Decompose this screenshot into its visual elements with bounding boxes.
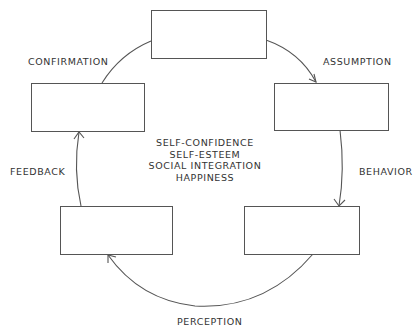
arrow-assumption xyxy=(266,40,316,82)
arrow-feedback xyxy=(76,132,81,206)
label-assumption: ASSUMPTION xyxy=(323,56,392,67)
center-text: SELF-CONFIDENCE SELF-ESTEEM SOCIAL INTEG… xyxy=(130,137,280,183)
center-item: HAPPINESS xyxy=(130,172,280,184)
center-item: SELF-ESTEEM xyxy=(130,149,280,161)
box-top xyxy=(151,10,267,59)
center-item: SOCIAL INTEGRATION xyxy=(130,160,280,172)
box-right-upper xyxy=(274,83,389,131)
label-feedback: FEEDBACK xyxy=(10,166,65,177)
arrow-behavior xyxy=(339,130,342,206)
box-left-lower xyxy=(60,206,173,255)
arrow-perception xyxy=(108,254,313,306)
center-item: SELF-CONFIDENCE xyxy=(130,137,280,149)
label-perception: PERCEPTION xyxy=(177,316,242,327)
label-behavior: BEHAVIOR xyxy=(359,166,413,177)
box-left-upper xyxy=(31,83,145,132)
box-right-lower xyxy=(244,206,360,255)
arrow-confirmation xyxy=(102,41,151,83)
label-confirmation: CONFIRMATION xyxy=(28,56,108,67)
